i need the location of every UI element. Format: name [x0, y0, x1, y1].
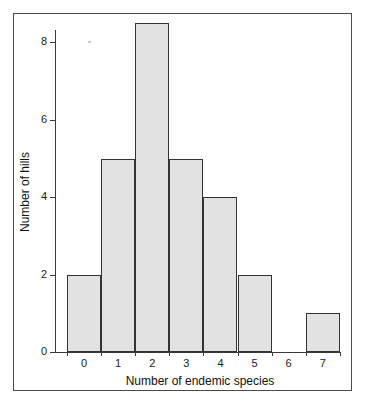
bar-2 — [135, 23, 169, 352]
scan-artifact-speck — [88, 41, 91, 43]
y-tick-1 — [50, 275, 55, 276]
x-tick-4 — [203, 352, 204, 356]
plot-area: 0 2 4 6 8 0 1 2 3 4 5 6 7 Number of ende… — [0, 0, 365, 410]
bar-3 — [169, 159, 203, 353]
y-tick-label-0: 0 — [7, 346, 47, 357]
y-tick-2 — [50, 197, 55, 198]
x-tick-label-6: 6 — [272, 357, 306, 369]
x-tick-label-2: 2 — [135, 357, 169, 369]
x-tick-6 — [272, 352, 273, 356]
bar-7 — [306, 313, 340, 352]
figure: 0 2 4 6 8 0 1 2 3 4 5 6 7 Number of ende… — [0, 0, 365, 410]
x-tick-label-0: 0 — [67, 357, 101, 369]
x-tick-label-4: 4 — [203, 357, 237, 369]
bar-0 — [67, 275, 101, 352]
x-axis-line — [55, 352, 341, 353]
x-tick-label-5: 5 — [238, 357, 272, 369]
x-tick-2 — [135, 352, 136, 356]
bar-4 — [203, 197, 237, 352]
x-tick-label-7: 7 — [306, 357, 340, 369]
y-tick-label-4: 8 — [7, 36, 47, 47]
y-axis-line — [55, 30, 56, 352]
x-tick-7 — [306, 352, 307, 356]
y-axis-title: Number of hills — [18, 112, 32, 272]
x-tick-1 — [101, 352, 102, 356]
bar-1 — [101, 159, 135, 353]
x-tick-0 — [67, 352, 68, 356]
bar-5 — [238, 275, 272, 352]
y-tick-0 — [50, 352, 55, 353]
x-tick-8 — [340, 352, 341, 356]
x-tick-label-3: 3 — [169, 357, 203, 369]
x-tick-5 — [238, 352, 239, 356]
y-tick-4 — [50, 42, 55, 43]
x-axis-title: Number of endemic species — [55, 374, 345, 388]
x-tick-3 — [169, 352, 170, 356]
x-tick-label-1: 1 — [101, 357, 135, 369]
y-tick-3 — [50, 120, 55, 121]
